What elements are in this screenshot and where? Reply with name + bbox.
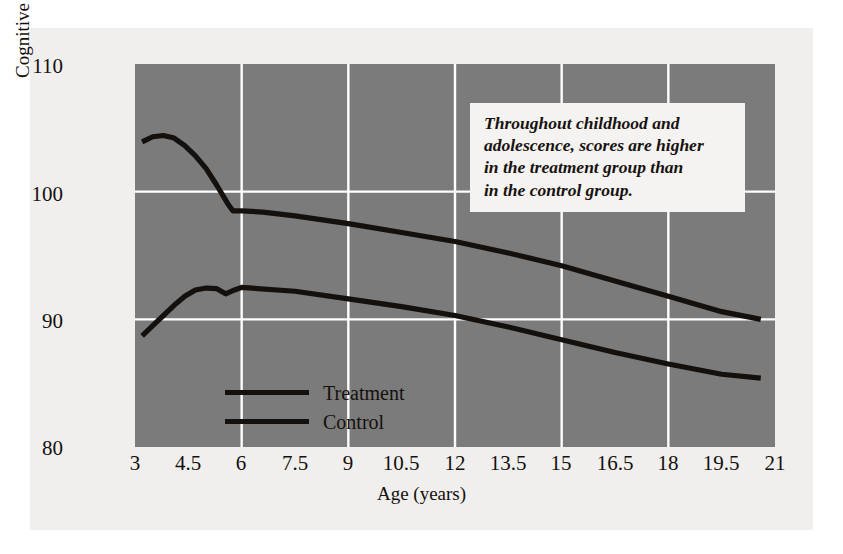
y-tick-80: 80 [3,438,63,459]
chart-legend: Treatment Control [225,378,404,436]
legend-swatch-treatment [225,390,309,395]
x-tick-21: 21 [765,453,786,474]
y-axis-label: Cognitive score [12,0,34,148]
x-tick-19p5: 19.5 [703,453,740,474]
x-tick-15: 15 [551,453,572,474]
figure-panel: 110 100 90 80 Cognitive score 3 4.5 6 7.… [30,28,813,530]
x-tick-9: 9 [343,453,354,474]
legend-item-control: Control [225,407,404,436]
annotation-callout: Throughout childhood and adolescence, sc… [470,103,745,212]
legend-label-treatment: Treatment [323,383,404,403]
x-tick-12: 12 [445,453,466,474]
x-axis-label: Age (years) [30,483,813,505]
x-tick-3: 3 [130,453,141,474]
annotation-line-2: adolescence, scores are higher [484,134,733,156]
legend-swatch-control [225,419,309,424]
x-tick-18: 18 [658,453,679,474]
x-tick-10p5: 10.5 [383,453,420,474]
x-tick-7p5: 7.5 [282,453,308,474]
y-tick-100: 100 [3,184,63,205]
annotation-line-4: in the control group. [484,179,733,201]
annotation-line-3: in the treatment group than [484,156,733,178]
y-tick-90: 90 [3,311,63,332]
legend-label-control: Control [323,412,384,432]
legend-item-treatment: Treatment [225,378,404,407]
annotation-line-1: Throughout childhood and [484,112,733,134]
x-tick-6: 6 [236,453,247,474]
x-tick-4p5: 4.5 [175,453,201,474]
x-tick-13p5: 13.5 [490,453,527,474]
x-tick-16p5: 16.5 [597,453,634,474]
